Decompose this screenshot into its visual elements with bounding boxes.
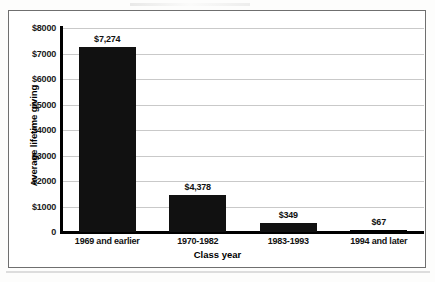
bar xyxy=(79,47,136,232)
bars-container xyxy=(62,28,424,232)
y-tick-label: $8000 xyxy=(32,23,56,33)
bar-value-label: $7,274 xyxy=(94,34,120,44)
bar xyxy=(169,195,226,232)
bar xyxy=(260,223,317,232)
y-tick-label: 0 xyxy=(51,227,56,237)
bar xyxy=(350,230,407,233)
scan-artifact-bottom xyxy=(6,271,430,273)
category-label: 1983-1993 xyxy=(268,236,309,246)
y-axis-title: Average lifetime giving xyxy=(28,56,39,216)
scan-artifact-top xyxy=(130,3,250,6)
category-label: 1970-1982 xyxy=(177,236,218,246)
bar-value-label: $4,378 xyxy=(185,182,211,192)
bar-value-label: $67 xyxy=(372,217,386,227)
category-label: 1969 and earlier xyxy=(75,236,140,246)
x-axis-title: Class year xyxy=(0,249,435,260)
bar-value-label: $349 xyxy=(279,210,298,220)
category-label: 1994 and later xyxy=(350,236,407,246)
chart-figure: $8000$7000$6000$5000$4000$3000$2000$1000… xyxy=(0,0,435,282)
